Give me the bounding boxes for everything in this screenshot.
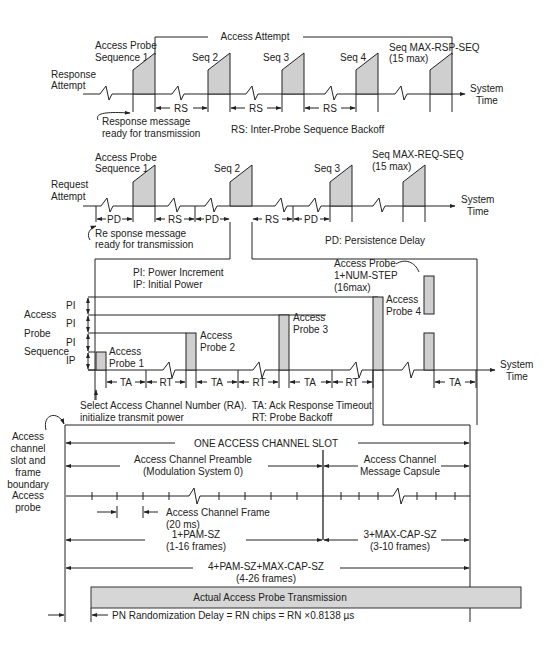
ta-gap: TA <box>435 377 475 388</box>
svg-text:(16max): (16max) <box>334 282 371 293</box>
ta-gap: TA <box>197 377 237 388</box>
response-seqmax-label-2: (15 max) <box>389 53 428 64</box>
svg-text:Probe 2: Probe 2 <box>200 342 235 353</box>
svg-text:TA: TA <box>120 377 132 388</box>
svg-text:Time: Time <box>506 371 528 382</box>
svg-text:PD: PD <box>107 214 121 225</box>
power-step-label: IP <box>66 355 76 366</box>
ta-gap: TA <box>290 377 331 388</box>
svg-text:Access Channel Preamble: Access Channel Preamble <box>134 454 252 465</box>
svg-text:(1-16 frames): (1-16 frames) <box>166 541 226 552</box>
svg-text:TA: TA <box>211 377 223 388</box>
svg-text:4+PAM-SZ+MAX-CAP-SZ: 4+PAM-SZ+MAX-CAP-SZ <box>208 561 324 572</box>
rt-gap: RT <box>239 377 278 388</box>
svg-text:(4-26 frames): (4-26 frames) <box>236 573 296 584</box>
rt-gap: RT <box>147 377 185 388</box>
rs-gap-2: RS <box>231 103 281 114</box>
response-seq1-label: Access Probe <box>95 40 157 51</box>
access-probe-4 <box>373 297 383 370</box>
access-probe-1 <box>96 352 106 370</box>
response-probe-seqmax <box>430 53 452 94</box>
svg-text:RS: RS <box>168 214 182 225</box>
svg-text:frame: frame <box>15 467 41 478</box>
svg-text:(3-10 frames): (3-10 frames) <box>370 541 430 552</box>
svg-text:1+PAM-SZ: 1+PAM-SZ <box>172 529 220 540</box>
rs-gap-req-1: RS <box>156 214 194 225</box>
svg-text:RT: RT <box>345 377 358 388</box>
svg-text:boundary: boundary <box>7 479 49 490</box>
svg-text:3+MAX-CAP-SZ: 3+MAX-CAP-SZ <box>363 529 436 540</box>
svg-text:Access: Access <box>200 330 232 341</box>
svg-text:PI: Power Increment: PI: Power Increment <box>133 267 224 278</box>
response-row-label: Response <box>51 69 96 80</box>
svg-text:RT: RT <box>252 377 265 388</box>
access-probe-3 <box>279 315 289 370</box>
probe-sequence-section: PI: Power Increment IP: Initial Power Ac… <box>24 258 533 423</box>
svg-text:(15 max): (15 max) <box>372 161 411 172</box>
probe-sequence-row-label: Access <box>24 309 56 320</box>
access-attempt-label: Access Attempt <box>221 31 290 42</box>
rt-gap: RT <box>333 377 372 388</box>
svg-text:Access Probe: Access Probe <box>334 258 396 269</box>
svg-text:Access Channel Frame: Access Channel Frame <box>166 507 270 518</box>
svg-text:TA: Ack Response Timeout: TA: Ack Response Timeout <box>252 400 372 411</box>
svg-text:RT: RT <box>159 377 172 388</box>
access-probe-2 <box>186 333 196 370</box>
response-ready-label: Response message <box>102 116 191 127</box>
response-seq2-label: Seq 2 <box>192 52 219 63</box>
svg-text:System: System <box>500 359 533 370</box>
svg-text:PD: PD <box>205 214 219 225</box>
svg-text:Access Probe: Access Probe <box>95 152 157 163</box>
svg-text:Re sponse message: Re sponse message <box>95 228 187 239</box>
svg-text:Sequence 1: Sequence 1 <box>95 163 149 174</box>
svg-text:RS: RS <box>174 103 188 114</box>
power-step-label: PI <box>66 337 75 348</box>
svg-text:slot and: slot and <box>10 455 45 466</box>
svg-text:Select Access Channel Number (: Select Access Channel Number (RA). <box>80 400 247 411</box>
svg-text:Access: Access <box>109 346 141 357</box>
request-row-label-2: Attempt <box>51 191 86 202</box>
response-axis-label-2: Time <box>476 95 498 106</box>
svg-text:Sequence: Sequence <box>24 346 69 357</box>
svg-text:Seq 3: Seq 3 <box>314 163 341 174</box>
rs-legend: RS: Inter-Probe Sequence Backoff <box>231 124 384 135</box>
svg-text:Seq 2: Seq 2 <box>214 163 241 174</box>
access-probe-last-lower <box>424 333 434 370</box>
slot-label: ONE ACCESS CHANNEL SLOT <box>194 438 338 449</box>
svg-text:RS: RS <box>323 103 337 114</box>
svg-text:Probe: Probe <box>24 328 51 339</box>
response-row-label-2: Attempt <box>51 80 86 91</box>
svg-text:Probe 3: Probe 3 <box>293 324 328 335</box>
svg-text:channel: channel <box>10 443 45 454</box>
ta-gap: TA <box>107 377 145 388</box>
svg-text:initialize transmit power: initialize transmit power <box>80 412 185 423</box>
rs-gap-req-2: RS <box>253 214 292 225</box>
response-attempt-section: Access Attempt Response Attempt Access P… <box>51 31 503 139</box>
response-ready-label-2: ready for transmission <box>102 128 200 139</box>
svg-text:Access Channel: Access Channel <box>364 454 436 465</box>
request-row-label: Request <box>51 179 88 190</box>
svg-text:Actual Access Probe Transmissi: Actual Access Probe Transmission <box>193 592 346 603</box>
pn-delay-label: PN Randomization Delay = RN chips = RN ×… <box>112 610 354 621</box>
svg-text:Access: Access <box>386 294 418 305</box>
svg-text:Probe 1: Probe 1 <box>109 358 144 369</box>
frame-axis <box>66 488 470 504</box>
svg-text:RT: Probe Backoff: RT: Probe Backoff <box>252 412 332 423</box>
svg-text:Access: Access <box>293 312 325 323</box>
svg-text:System: System <box>461 194 494 205</box>
svg-text:Access: Access <box>12 490 44 501</box>
power-step-label: PI <box>66 300 75 311</box>
power-step-label: PI <box>66 318 75 329</box>
access-slot-section: Access channel slot and frame boundary A… <box>7 415 521 622</box>
response-seq3-label: Seq 3 <box>263 52 290 63</box>
pd-gap-1: PD <box>97 214 132 225</box>
svg-text:TA: TA <box>304 377 316 388</box>
svg-text:Probe 4: Probe 4 <box>386 306 421 317</box>
svg-text:Access: Access <box>12 431 44 442</box>
response-seqmax-label: Seq MAX-RSP-SEQ <box>389 42 480 53</box>
rs-gap-3: RS <box>305 103 355 114</box>
svg-text:RS: RS <box>249 103 263 114</box>
svg-text:ready for transmission: ready for transmission <box>95 239 193 250</box>
pd-legend: PD: Persistence Delay <box>325 235 425 246</box>
svg-text:probe: probe <box>15 502 41 513</box>
